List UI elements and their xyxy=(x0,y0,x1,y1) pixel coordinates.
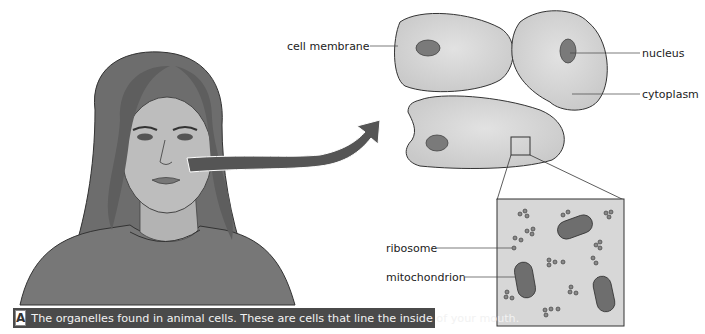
label-cell-membrane: cell membrane xyxy=(287,40,370,53)
person-illustration xyxy=(20,52,295,305)
nucleus-icon xyxy=(426,135,448,151)
label-ribosome: ribosome xyxy=(386,242,437,255)
nucleus-icon xyxy=(416,40,440,56)
magnified-cytoplasm xyxy=(497,199,624,326)
caption-letter: A xyxy=(15,310,26,326)
cell-top-left xyxy=(395,13,514,91)
label-nucleus: nucleus xyxy=(642,47,685,60)
cell-top-right xyxy=(512,11,607,110)
label-mitochondrion: mitochondrion xyxy=(386,271,466,284)
label-cytoplasm: cytoplasm xyxy=(642,88,699,101)
nucleus-icon xyxy=(560,39,576,63)
cell-bottom xyxy=(406,96,564,169)
figure-caption: A The organelles found in animal cells. … xyxy=(13,308,435,328)
caption-text: The organelles found in animal cells. Th… xyxy=(31,312,519,325)
